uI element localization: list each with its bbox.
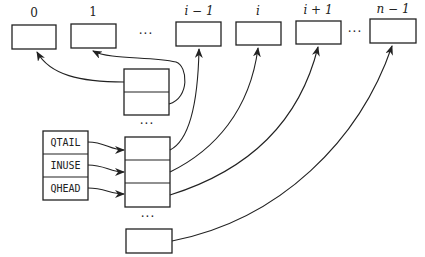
- slot-box-i-plus-1: [296, 21, 341, 44]
- edge-main-to-slot-i-minus-1: [170, 49, 199, 150]
- register-qtail: QTAIL: [50, 137, 80, 148]
- slot-label-n-minus-1: n − 1: [376, 2, 409, 16]
- slot-label-0: 0: [30, 6, 38, 20]
- slot-label-i-minus-1: i − 1: [184, 4, 213, 18]
- main-stack: [125, 137, 170, 207]
- slot-box-n-minus-1: [370, 19, 416, 43]
- edge-main-to-slot-i-plus-1: [170, 47, 318, 195]
- slot-box-1: [71, 24, 116, 48]
- slot-label-1: 1: [89, 5, 97, 19]
- edge-main-to-slot-i: [170, 48, 258, 172]
- edge-qhead: [88, 188, 124, 194]
- bottom-stack-cell: [126, 229, 172, 253]
- ellipsis-top-left: ···: [139, 27, 153, 41]
- edge-upper-to-slot-0: [37, 52, 124, 82]
- slot-box-0: [12, 25, 56, 49]
- edge-inuse: [88, 165, 124, 172]
- slot-label-i: i: [256, 4, 260, 18]
- slot-box-i: [236, 22, 281, 45]
- edge-bottom-to-slot-n-minus-1: [172, 46, 392, 241]
- queue-diagram: 0 1 i − 1 i i + 1 n − 1 ··· ··· ··· QTAI…: [0, 0, 425, 257]
- register-inuse: INUSE: [50, 160, 80, 171]
- register-qhead: QHEAD: [50, 183, 80, 194]
- slot-box-i-minus-1: [176, 22, 221, 46]
- ellipsis-top-right: ···: [348, 25, 362, 39]
- slot-label-i-plus-1: i + 1: [303, 3, 332, 17]
- ellipsis-stack-top: ···: [140, 117, 154, 131]
- ellipsis-stack-bottom: ···: [141, 210, 155, 224]
- edge-qtail: [88, 142, 124, 150]
